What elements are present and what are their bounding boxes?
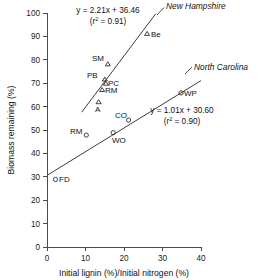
- r-squared-nc: (r2 = 0.90): [164, 116, 201, 126]
- y-tick-label: 80: [31, 56, 41, 65]
- leader-line-new-hampshire: [157, 8, 164, 16]
- x-tick-label: 30: [158, 254, 168, 263]
- y-tick-label: 10: [31, 220, 41, 229]
- equation-north-carolina: y = 1.01x + 30.60 (r2 = 0.90): [150, 106, 214, 126]
- series-points-north-carolina: WP CO WO RM FD: [53, 89, 196, 184]
- equation-new-hampshire: y = 2.21x + 36.46 (r2 = 0.91): [76, 6, 140, 26]
- data-point-marker-a[interactable]: [96, 100, 101, 104]
- data-point-label-wp: WP: [184, 89, 197, 98]
- y-tick-label: 70: [31, 79, 41, 88]
- x-tick-group: 0 10 20 30 40: [45, 247, 206, 263]
- r-squared-nh: (r2 = 0.91): [90, 16, 127, 26]
- equation-line-nh: y = 2.21x + 36.46: [76, 6, 140, 15]
- y-tick-label: 20: [31, 196, 41, 205]
- data-point-marker-co[interactable]: [127, 118, 131, 122]
- data-point-label-rm-nh: RM: [105, 86, 118, 95]
- x-tick-label: 0: [45, 254, 50, 263]
- data-point-label-co: CO: [115, 111, 127, 120]
- data-point-label-fd: FD: [59, 175, 70, 184]
- y-tick-label: 100: [26, 9, 40, 18]
- y-tick-label: 90: [31, 32, 41, 41]
- series-label-new-hampshire: New Hampshire: [166, 1, 226, 11]
- y-tick-label: 50: [31, 126, 41, 135]
- data-point-label-a: A: [95, 105, 101, 114]
- data-point-marker-fd[interactable]: [53, 177, 57, 181]
- series-points-new-hampshire: Be SM PB PC RM A: [87, 30, 161, 114]
- y-tick-label: 0: [35, 243, 40, 252]
- x-tick-label: 10: [81, 254, 91, 263]
- y-tick-label: 40: [31, 149, 41, 158]
- scatter-plot-figure: 0 10 20 30 40 50 60 70 80 90 100 0: [0, 0, 263, 280]
- equation-line-nc: y = 1.01x + 30.60: [150, 106, 214, 115]
- y-tick-group: 0 10 20 30 40 50 60 70 80 90 100: [26, 9, 47, 252]
- data-point-marker-rm-nc[interactable]: [84, 133, 88, 137]
- plot-canvas: 0 10 20 30 40 50 60 70 80 90 100 0: [0, 0, 263, 280]
- y-axis-title: Biomass remaining (%): [6, 85, 16, 174]
- r-squared-nc-tail: = 0.90): [172, 117, 200, 126]
- x-tick-label: 20: [119, 254, 129, 263]
- x-axis-title: Initial lignin (%)/Initial nitrogen (%): [59, 268, 189, 278]
- data-point-marker-pb[interactable]: [102, 77, 107, 81]
- leader-line-north-carolina: [185, 67, 192, 74]
- data-point-marker-be[interactable]: [145, 31, 150, 35]
- series-label-north-carolina: North Carolina: [194, 62, 248, 72]
- data-point-label-wo: WO: [112, 136, 126, 145]
- data-point-label-be: Be: [151, 30, 161, 39]
- data-point-label-sm: SM: [92, 54, 104, 63]
- y-tick-label: 60: [31, 103, 41, 112]
- y-tick-label: 30: [31, 173, 41, 182]
- r-squared-nh-tail: = 0.91): [98, 17, 126, 26]
- regression-line-new-hampshire: [82, 14, 156, 112]
- data-point-label-pb: PB: [87, 71, 98, 80]
- x-tick-label: 40: [196, 254, 206, 263]
- data-point-marker-sm[interactable]: [105, 62, 110, 66]
- data-point-label-rm-nc: RM: [70, 127, 83, 136]
